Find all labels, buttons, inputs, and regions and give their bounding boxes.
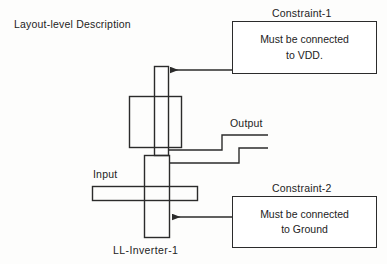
constraint-1-line-2: to VDD. (286, 48, 323, 63)
page-title: Layout-level Description (14, 18, 131, 30)
input-port-label: Input (93, 168, 117, 180)
constraint-2-title: Constraint-2 (272, 182, 332, 194)
constraint-1-box: Must be connected to VDD. (232, 21, 377, 74)
ground-rail-shape (145, 156, 170, 238)
vdd-rail-shape (155, 67, 169, 156)
constraint-2-box: Must be connected to Ground (232, 196, 377, 248)
cell-name-label: LL-Inverter-1 (113, 244, 178, 256)
constraint-2-line-2: to Ground (281, 222, 328, 237)
output-port-label: Output (230, 117, 263, 129)
constraint-2-line-1: Must be connected (260, 207, 349, 222)
constraint-1-title: Constraint-1 (272, 7, 332, 19)
constraint-1-line-1: Must be connected (260, 32, 349, 47)
